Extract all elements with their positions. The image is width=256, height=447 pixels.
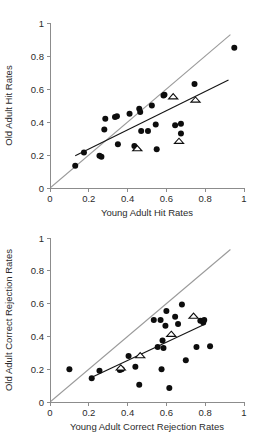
data-point-circle (172, 314, 178, 320)
y-tick-label: 0.6 (31, 298, 44, 309)
data-point-circle (127, 111, 133, 117)
data-point-circle (178, 131, 184, 137)
chart-panel-hit-rates: 00.20.40.60.8100.20.40.60.81Young Adult … (0, 0, 256, 224)
data-point-circle (207, 343, 213, 349)
data-point-triangle (189, 313, 198, 318)
y-tick-label: 0.4 (31, 331, 44, 342)
data-point-circle (136, 382, 142, 388)
y-tick-label: 0.8 (31, 265, 44, 276)
data-point-circle (101, 126, 107, 132)
data-point-circle (149, 103, 155, 109)
x-tick-label: 0.2 (82, 407, 95, 418)
data-point-circle (151, 317, 157, 323)
data-point-circle (160, 338, 166, 344)
x-tick-label: 0.6 (160, 407, 173, 418)
data-point-circle (166, 385, 172, 391)
data-point-circle (72, 163, 78, 169)
x-tick-label: 0.8 (199, 193, 212, 204)
x-tick-label: 0 (47, 193, 52, 204)
y-tick-label: 0 (39, 397, 44, 408)
data-point-circle (96, 368, 102, 374)
data-point-circle (137, 109, 143, 115)
x-tick-label: 0.2 (82, 193, 95, 204)
data-point-triangle (167, 331, 176, 336)
series-individual-studies (72, 45, 237, 169)
data-point-circle (81, 150, 87, 156)
correct-rejection-rates-scatter-svg: 00.20.40.60.8100.20.40.60.81Young Adult … (0, 224, 256, 447)
x-tick-label: 0 (47, 407, 52, 418)
data-point-circle (163, 308, 169, 314)
data-point-circle (161, 92, 167, 98)
data-point-circle (158, 317, 164, 323)
regression-line (90, 324, 205, 378)
data-point-circle (183, 357, 189, 363)
y-axis-title: Old Adult Hit Rates (3, 65, 14, 146)
x-tick-label: 1 (241, 407, 246, 418)
identity-line (50, 249, 230, 402)
x-axis-title: Young Adult Hit Rates (101, 207, 193, 218)
y-axis-title: Old Adult Correct Rejection Rates (3, 249, 14, 391)
data-point-circle (102, 116, 108, 122)
data-point-circle (153, 121, 159, 127)
data-point-circle (145, 128, 151, 134)
x-tick-label: 1 (241, 193, 246, 204)
data-point-circle (66, 366, 72, 372)
x-tick-label: 0.6 (160, 193, 173, 204)
data-point-circle (138, 128, 144, 134)
y-tick-label: 0.6 (31, 84, 44, 95)
data-point-circle (98, 154, 104, 160)
data-point-circle (154, 146, 160, 152)
data-point-circle (179, 301, 185, 307)
y-tick-label: 0 (39, 183, 44, 194)
data-point-circle (175, 321, 181, 327)
y-tick-label: 0.8 (31, 51, 44, 62)
data-point-circle (115, 141, 121, 147)
data-point-circle (192, 81, 198, 87)
data-point-circle (178, 121, 184, 127)
chart-panel-correct-rejection-rates: 00.20.40.60.8100.20.40.60.81Young Adult … (0, 224, 256, 447)
data-point-circle (172, 122, 178, 128)
x-axis-title: Young Adult Correct Rejection Rates (70, 421, 224, 432)
y-tick-label: 1 (39, 18, 44, 29)
data-point-triangle (169, 94, 178, 99)
y-tick-label: 0.2 (31, 364, 44, 375)
hit-rates-scatter-svg: 00.20.40.60.8100.20.40.60.81Young Adult … (0, 0, 256, 224)
series-individual-studies (66, 301, 213, 391)
data-point-circle (132, 364, 138, 370)
data-point-circle (126, 353, 132, 359)
data-point-circle (162, 323, 168, 329)
scatter-plot-figure: 00.20.40.60.8100.20.40.60.81Young Adult … (0, 0, 256, 447)
plot-area (50, 249, 230, 402)
y-tick-label: 0.2 (31, 150, 44, 161)
x-tick-label: 0.4 (121, 193, 134, 204)
regression-line (75, 80, 228, 156)
y-tick-label: 0.4 (31, 117, 44, 128)
data-point-triangle (174, 138, 183, 143)
data-point-circle (201, 317, 207, 323)
data-point-circle (159, 366, 165, 372)
data-point-circle (231, 45, 237, 51)
x-tick-label: 0.4 (121, 407, 134, 418)
x-tick-label: 0.8 (199, 407, 212, 418)
data-point-circle (89, 375, 95, 381)
data-point-circle (155, 344, 161, 350)
data-point-circle (114, 113, 120, 119)
data-point-circle (160, 345, 166, 351)
data-point-circle (193, 344, 199, 350)
y-tick-label: 1 (39, 233, 44, 244)
